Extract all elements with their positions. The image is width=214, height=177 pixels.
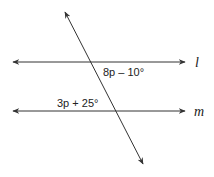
line-m-label: m	[194, 104, 204, 119]
transversal-line	[65, 12, 143, 164]
upper-angle-label: 8p – 10°	[103, 66, 144, 78]
line-l-label: l	[195, 55, 199, 70]
diagram-canvas: l m 8p – 10° 3p + 25°	[0, 0, 214, 177]
lower-angle-label: 3p + 25°	[57, 97, 98, 109]
